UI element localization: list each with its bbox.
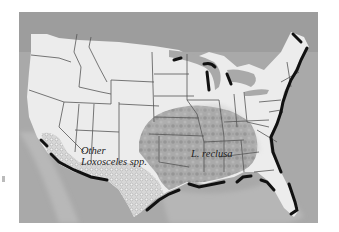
reclusa-label: L. reclusa — [191, 148, 233, 159]
other-label-line2: Loxosceles spp. — [81, 156, 147, 167]
other-label-line1: Other — [81, 145, 147, 156]
us-map-graphic — [19, 12, 318, 223]
range-map: Other Loxosceles spp. L. reclusa — [19, 12, 318, 223]
edge-mark — [2, 176, 5, 182]
other-loxosceles-label: Other Loxosceles spp. — [81, 145, 147, 167]
